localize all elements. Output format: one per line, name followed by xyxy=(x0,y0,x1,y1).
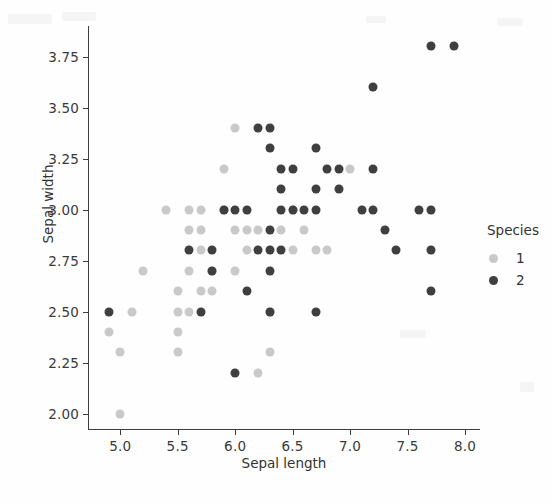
y-tick-mark xyxy=(83,312,88,313)
data-point xyxy=(426,246,435,255)
y-axis-label: Sepal width xyxy=(40,144,56,264)
data-point xyxy=(139,266,148,275)
data-point xyxy=(185,307,194,316)
data-point xyxy=(300,226,309,235)
paper-artifact xyxy=(520,382,534,392)
data-point xyxy=(231,266,240,275)
data-point xyxy=(323,246,332,255)
data-point xyxy=(277,185,286,194)
data-point xyxy=(265,124,274,133)
data-point xyxy=(208,287,217,296)
x-tick-mark xyxy=(350,430,351,435)
data-point xyxy=(254,368,263,377)
data-point xyxy=(254,226,263,235)
x-tick-label: 7.0 xyxy=(339,438,361,454)
y-tick-label: 2.50 xyxy=(48,304,79,320)
data-point xyxy=(311,185,320,194)
data-point xyxy=(265,226,274,235)
legend-item-label: 1 xyxy=(516,250,525,266)
legend-item-2[interactable]: 2 xyxy=(487,269,549,291)
legend-title: Species xyxy=(487,222,549,238)
data-point xyxy=(380,226,389,235)
data-point xyxy=(254,246,263,255)
data-point xyxy=(311,307,320,316)
y-tick-mark xyxy=(83,108,88,109)
data-point xyxy=(288,205,297,214)
data-point xyxy=(265,348,274,357)
y-axis-spine xyxy=(88,26,89,430)
data-point xyxy=(369,83,378,92)
x-tick-label: 8.0 xyxy=(454,438,476,454)
legend-item-1[interactable]: 1 xyxy=(487,247,549,269)
data-point xyxy=(323,164,332,173)
data-point xyxy=(426,42,435,51)
y-tick-mark xyxy=(83,363,88,364)
x-tick-mark xyxy=(235,430,236,435)
x-tick-mark xyxy=(408,430,409,435)
data-point xyxy=(219,164,228,173)
x-tick-mark xyxy=(178,430,179,435)
y-tick-mark xyxy=(83,57,88,58)
data-point xyxy=(116,348,125,357)
paper-artifact xyxy=(497,18,523,26)
data-point xyxy=(277,226,286,235)
data-point xyxy=(185,266,194,275)
data-point xyxy=(265,307,274,316)
data-point xyxy=(104,307,113,316)
data-point xyxy=(127,307,136,316)
y-tick-label: 2.25 xyxy=(48,355,79,371)
x-tick-label: 6.0 xyxy=(224,438,246,454)
x-tick-mark xyxy=(465,430,466,435)
x-axis-spine xyxy=(88,429,480,430)
data-point xyxy=(334,185,343,194)
y-tick-mark xyxy=(83,159,88,160)
data-point xyxy=(173,348,182,357)
data-point xyxy=(185,205,194,214)
data-point xyxy=(196,246,205,255)
data-point xyxy=(196,205,205,214)
data-point xyxy=(173,328,182,337)
data-point xyxy=(369,164,378,173)
x-axis-label: Sepal length xyxy=(88,455,480,471)
x-tick-label: 6.5 xyxy=(282,438,304,454)
data-point xyxy=(242,246,251,255)
data-point xyxy=(219,205,228,214)
data-point xyxy=(334,164,343,173)
data-point xyxy=(231,226,240,235)
data-point xyxy=(173,307,182,316)
data-point xyxy=(300,205,309,214)
x-tick-mark xyxy=(293,430,294,435)
y-tick-label: 3.75 xyxy=(48,49,79,65)
data-point xyxy=(265,246,274,255)
scatter-plot-figure: 2.002.252.502.753.003.253.503.75 5.05.56… xyxy=(0,0,552,504)
data-point xyxy=(288,164,297,173)
data-point xyxy=(311,205,320,214)
x-tick-label: 7.5 xyxy=(397,438,419,454)
x-tick-label: 5.5 xyxy=(167,438,189,454)
data-point xyxy=(242,205,251,214)
data-point xyxy=(196,287,205,296)
legend: Species 12 xyxy=(487,222,549,291)
data-point xyxy=(426,205,435,214)
data-point xyxy=(277,246,286,255)
paper-artifact xyxy=(62,12,96,21)
data-point xyxy=(231,205,240,214)
data-point xyxy=(196,307,205,316)
y-tick-label: 3.50 xyxy=(48,100,79,116)
data-point xyxy=(231,368,240,377)
y-tick-mark xyxy=(83,210,88,211)
legend-marker-icon xyxy=(489,254,498,263)
data-point xyxy=(231,124,240,133)
data-point xyxy=(208,246,217,255)
data-point xyxy=(346,164,355,173)
plot-area: 2.002.252.502.753.003.253.503.75 5.05.56… xyxy=(88,26,480,430)
data-point xyxy=(104,328,113,337)
data-point xyxy=(185,226,194,235)
legend-marker-icon xyxy=(489,276,498,285)
y-tick-label: 2.00 xyxy=(48,406,79,422)
data-point xyxy=(208,266,217,275)
data-point xyxy=(277,164,286,173)
data-point xyxy=(357,205,366,214)
paper-artifact xyxy=(366,16,386,23)
data-point xyxy=(288,246,297,255)
